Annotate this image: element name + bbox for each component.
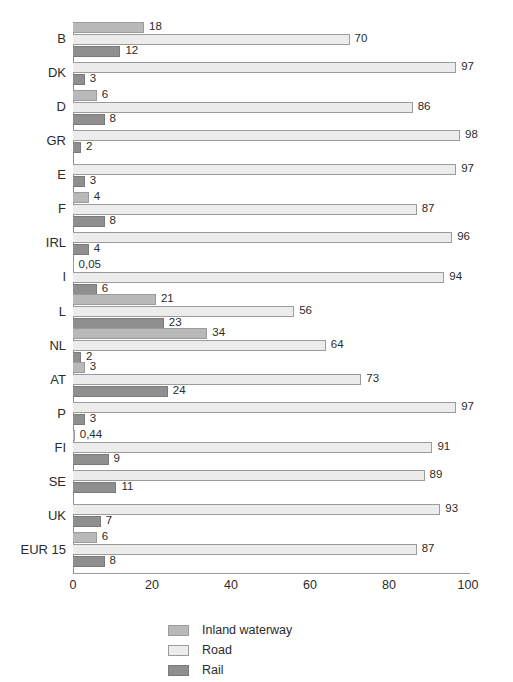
bar-row: 56 xyxy=(73,306,468,317)
bar-inland xyxy=(73,532,97,543)
bar-group: 0,44919 xyxy=(73,430,468,466)
bar-rail xyxy=(73,556,105,567)
bar-group: 973 xyxy=(73,164,468,188)
bar-value-label: 73 xyxy=(366,372,379,384)
bar-row: 93 xyxy=(73,504,468,515)
bar-road xyxy=(73,232,452,243)
bar-road xyxy=(73,34,350,45)
bar-value-label: 70 xyxy=(355,32,368,44)
bar-value-label: 8 xyxy=(110,214,116,226)
bar-row: 0,44 xyxy=(73,430,468,441)
bar-row: 34 xyxy=(73,328,468,339)
bar-row: 97 xyxy=(73,402,468,413)
bar-value-label: 11 xyxy=(121,480,133,492)
bar-rail xyxy=(73,244,89,255)
bar-row: 0,05 xyxy=(73,260,468,271)
bar-group: 982 xyxy=(73,130,468,154)
bar-value-label: 21 xyxy=(161,292,174,304)
category-label-eur-15: EUR 15 xyxy=(4,542,66,557)
category-label-gr: GR xyxy=(4,133,66,148)
bar-row: 86 xyxy=(73,102,468,113)
bar-inland xyxy=(73,260,74,271)
bar-value-label: 18 xyxy=(149,20,162,32)
bar-row: 6 xyxy=(73,532,468,543)
bar-group: 6868 xyxy=(73,90,468,126)
bar-rail xyxy=(73,414,85,425)
bar-row: 3 xyxy=(73,176,468,187)
bar-group: 6878 xyxy=(73,532,468,568)
bar-inland xyxy=(73,192,89,203)
bar-row: 97 xyxy=(73,164,468,175)
category-label-dk: DK xyxy=(4,65,66,80)
bar-group: 937 xyxy=(73,504,468,528)
legend-item-road: Road xyxy=(168,640,292,660)
bar-row: 8 xyxy=(73,216,468,227)
bar-row: 64 xyxy=(73,340,468,351)
bar-value-label: 6 xyxy=(102,88,108,100)
bar-road xyxy=(73,164,456,175)
x-axis-line xyxy=(73,573,470,574)
bar-rail xyxy=(73,454,109,465)
bar-inland xyxy=(73,430,75,441)
bar-row: 4 xyxy=(73,192,468,203)
bar-road xyxy=(73,62,456,73)
bar-row: 73 xyxy=(73,374,468,385)
bar-value-label: 8 xyxy=(110,554,116,566)
bar-inland xyxy=(73,328,207,339)
bar-value-label: 97 xyxy=(461,400,474,412)
bar-row: 9 xyxy=(73,454,468,465)
bar-value-label: 87 xyxy=(422,202,435,214)
x-tick-label: 0 xyxy=(70,578,77,592)
bar-inland xyxy=(73,362,85,373)
x-tick-label: 60 xyxy=(303,578,317,592)
bar-road xyxy=(73,374,361,385)
legend-label-rail: Rail xyxy=(202,663,224,677)
bar-value-label: 8 xyxy=(110,112,116,124)
bar-value-label: 3 xyxy=(90,412,96,424)
bar-value-label: 98 xyxy=(465,128,478,140)
category-label-i: I xyxy=(4,269,66,284)
bar-row: 3 xyxy=(73,362,468,373)
category-label-f: F xyxy=(4,201,66,216)
bar-group: 0,05946 xyxy=(73,260,468,296)
bar-value-label: 0,05 xyxy=(79,258,101,270)
bar-value-label: 3 xyxy=(90,72,96,84)
bar-row: 4 xyxy=(73,244,468,255)
bar-group: 187012 xyxy=(73,22,468,58)
category-label-fi: FI xyxy=(4,440,66,455)
bar-row: 18 xyxy=(73,22,468,33)
bar-value-label: 4 xyxy=(94,242,100,254)
bar-road xyxy=(73,402,456,413)
bar-value-label: 3 xyxy=(90,174,96,186)
bar-rail xyxy=(73,176,85,187)
bar-row: 94 xyxy=(73,272,468,283)
category-label-nl: NL xyxy=(4,338,66,353)
bar-value-label: 9 xyxy=(114,452,120,464)
bar-value-label: 91 xyxy=(437,440,450,452)
bar-row: 87 xyxy=(73,544,468,555)
chart-legend: Inland waterwayRoadRail xyxy=(168,620,292,680)
bar-value-label: 2 xyxy=(86,140,92,152)
bar-row: 97 xyxy=(73,62,468,73)
bar-road xyxy=(73,204,417,215)
bar-rail xyxy=(73,386,168,397)
bar-value-label: 93 xyxy=(445,502,458,514)
bar-group: 964 xyxy=(73,232,468,256)
bar-row: 21 xyxy=(73,294,468,305)
x-tick-label: 20 xyxy=(145,578,159,592)
bar-row: 87 xyxy=(73,204,468,215)
bar-row: 3 xyxy=(73,74,468,85)
bar-value-label: 56 xyxy=(299,304,312,316)
category-label-b: B xyxy=(4,31,66,46)
bar-row: 96 xyxy=(73,232,468,243)
bar-rail xyxy=(73,46,120,57)
bar-value-label: 97 xyxy=(461,60,474,72)
legend-item-rail: Rail xyxy=(168,660,292,680)
bar-row: 7 xyxy=(73,516,468,527)
category-label-p: P xyxy=(4,406,66,421)
bar-road xyxy=(73,272,444,283)
bar-value-label: 0,44 xyxy=(80,428,102,440)
x-axis-tick xyxy=(73,569,74,574)
bar-group: 973 xyxy=(73,62,468,86)
bar-group: 37324 xyxy=(73,362,468,398)
